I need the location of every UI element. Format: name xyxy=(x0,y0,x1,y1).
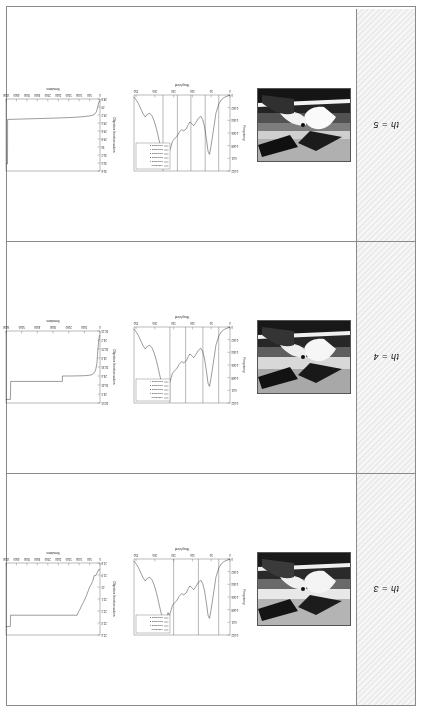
svg-text:150: 150 xyxy=(171,322,176,326)
svg-text:Threshold 4: Threshold 4 xyxy=(149,381,163,384)
y-ticks xyxy=(228,560,231,636)
svg-text:50: 50 xyxy=(209,554,212,558)
plot-area: Histogram Threshold 1 Threshold 2 Thresh… xyxy=(133,548,246,638)
segmented-image-th4 xyxy=(257,321,351,395)
histogram-ylabel-th4: Frequency xyxy=(242,358,246,373)
row-label-cell: th = 4 xyxy=(356,242,415,473)
x-ticks xyxy=(6,99,100,102)
svg-text:0.006: 0.006 xyxy=(231,131,238,135)
svg-text:0: 0 xyxy=(99,558,101,562)
svg-text:30.6: 30.6 xyxy=(101,169,107,173)
svg-text:26.55: 26.55 xyxy=(101,402,108,406)
svg-text:250: 250 xyxy=(133,554,138,558)
svg-text:3000: 3000 xyxy=(50,326,56,330)
svg-text:4000: 4000 xyxy=(13,558,19,562)
y-tick-labels-th4: 26.15 26.2 26.25 26.3 26.35 26.4 26.45 2… xyxy=(101,330,108,406)
svg-text:0: 0 xyxy=(229,322,231,326)
svg-text:5000: 5000 xyxy=(18,326,24,330)
y-ticks xyxy=(98,564,101,636)
histogram-chart-th3: Histogram Threshold 1 Threshold 2 Thresh… xyxy=(124,536,252,644)
svg-text:50: 50 xyxy=(209,322,212,326)
svg-text:0.008: 0.008 xyxy=(231,608,238,612)
svg-text:Threshold 3: Threshold 3 xyxy=(149,152,163,155)
svg-text:500: 500 xyxy=(87,93,92,97)
svg-text:0.012: 0.012 xyxy=(231,634,238,638)
svg-text:Threshold 2: Threshold 2 xyxy=(149,389,163,392)
svg-text:0.008: 0.008 xyxy=(231,144,238,148)
svg-text:0.006: 0.006 xyxy=(231,596,238,600)
convergence-curve-th5 xyxy=(6,101,100,163)
convergence-xlabel-th5: Iterations xyxy=(46,87,60,91)
x-ticks xyxy=(6,332,100,335)
svg-text:Threshold 1: Threshold 1 xyxy=(149,625,163,628)
svg-text:30.2: 30.2 xyxy=(101,153,107,157)
svg-text:26.3: 26.3 xyxy=(101,357,107,361)
svg-text:29.2: 29.2 xyxy=(101,113,107,117)
svg-text:0.002: 0.002 xyxy=(231,338,238,342)
svg-text:0: 0 xyxy=(99,326,101,330)
svg-text:0: 0 xyxy=(231,558,233,562)
svg-text:150: 150 xyxy=(171,554,176,558)
row-label-cell: th = 3 xyxy=(356,474,415,705)
svg-text:50: 50 xyxy=(209,89,212,93)
svg-text:29.6: 29.6 xyxy=(101,129,107,133)
svg-text:100: 100 xyxy=(190,89,195,93)
segmented-image-th5 xyxy=(257,88,351,162)
threshold-lines-th3 xyxy=(174,560,219,636)
x-tick-labels-th5: 0 50 100 150 200 250 xyxy=(133,89,230,93)
svg-text:3500: 3500 xyxy=(23,93,29,97)
convergence-curve-th3 xyxy=(6,570,100,627)
convergence-xlabel-th3: Iterations xyxy=(46,552,60,556)
svg-text:2000: 2000 xyxy=(55,93,61,97)
svg-text:Histogram: Histogram xyxy=(152,164,163,167)
svg-text:0.002: 0.002 xyxy=(231,106,238,110)
svg-text:Histogram: Histogram xyxy=(152,629,163,632)
svg-text:1500: 1500 xyxy=(65,93,71,97)
svg-text:500: 500 xyxy=(87,558,92,562)
histogram-curve-th3 xyxy=(134,560,230,625)
figure-page: th = 3 xyxy=(0,0,422,714)
histogram-cell: Histogram Threshold 1 Threshold 2 Thresh… xyxy=(124,9,252,241)
svg-text:0: 0 xyxy=(99,93,101,97)
x-ticks xyxy=(6,564,100,567)
svg-text:0: 0 xyxy=(229,554,231,558)
table-row: th = 3 xyxy=(7,473,415,705)
histogram-cell: Histogram Threshold 1 Threshold 2 Thresh… xyxy=(124,242,252,473)
y-ticks xyxy=(228,328,231,404)
svg-text:0: 0 xyxy=(229,89,231,93)
svg-text:6000: 6000 xyxy=(3,326,9,330)
svg-text:0: 0 xyxy=(231,326,233,330)
svg-text:21.8: 21.8 xyxy=(101,562,107,566)
svg-text:1000: 1000 xyxy=(76,558,82,562)
histogram-xlabel-th4: Gray level xyxy=(175,316,190,320)
row-label-th5: th = 5 xyxy=(373,120,399,130)
svg-text:2000: 2000 xyxy=(65,326,71,330)
svg-text:100: 100 xyxy=(190,554,195,558)
svg-text:1500: 1500 xyxy=(65,558,71,562)
x-tick-labels-th3: 0 500 1000 1500 2000 2500 3000 3500 4000… xyxy=(3,558,101,562)
y-tick-labels-th5: 0 0.002 0.004 0.006 0.008 0.01 0.012 xyxy=(231,93,238,173)
segmented-image-cell xyxy=(252,242,356,473)
row-label-th3: th = 3 xyxy=(373,585,399,595)
svg-text:0.002: 0.002 xyxy=(231,570,238,574)
svg-text:29.4: 29.4 xyxy=(101,121,107,125)
convergence-ylabel-th5: Objective function values xyxy=(112,117,116,153)
x-tick-labels-th4: 0 50 100 150 200 250 xyxy=(133,322,230,326)
svg-text:22.2: 22.2 xyxy=(101,610,107,614)
segmented-image-cell xyxy=(252,9,356,241)
svg-text:Threshold 3: Threshold 3 xyxy=(149,385,163,388)
svg-text:0.004: 0.004 xyxy=(231,118,238,122)
svg-text:28.8: 28.8 xyxy=(101,97,107,101)
convergence-ylabel-th3: Objective function values xyxy=(112,582,116,618)
histogram-xlabel-th5: Gray level xyxy=(175,83,190,87)
svg-text:2500: 2500 xyxy=(44,558,50,562)
svg-text:4000: 4000 xyxy=(34,326,40,330)
svg-text:30.4: 30.4 xyxy=(101,161,107,165)
results-table: th = 3 xyxy=(6,6,416,706)
convergence-cell: 0 500 1000 1500 2000 2500 3000 3500 4000… xyxy=(0,9,124,241)
svg-text:4000: 4000 xyxy=(13,93,19,97)
svg-text:26.35: 26.35 xyxy=(101,366,108,370)
svg-text:26.25: 26.25 xyxy=(101,348,108,352)
histogram-chart-th5: Histogram Threshold 1 Threshold 2 Thresh… xyxy=(124,71,252,179)
y-tick-labels-th3: 21.8 21.9 22 22.1 22.2 22.3 22.4 xyxy=(101,562,107,638)
